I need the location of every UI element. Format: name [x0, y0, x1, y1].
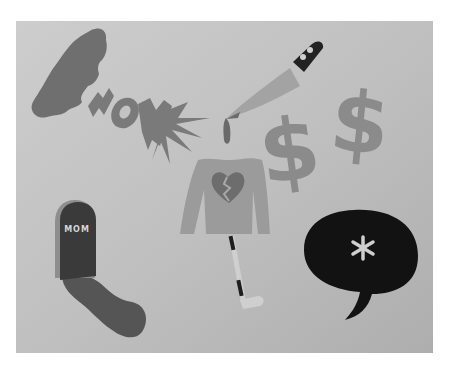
svg-text:$: $ [326, 71, 394, 175]
tombstone-text: MOM [64, 225, 90, 234]
artwork-photo: $ $ MOM [0, 0, 450, 368]
dollar-sign-cutout-2: $ [326, 71, 394, 175]
